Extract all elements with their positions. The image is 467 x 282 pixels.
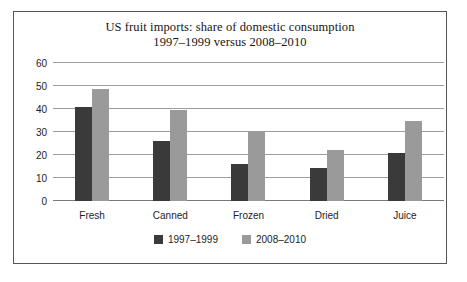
y-axis-tick-label-20: 20	[36, 150, 47, 161]
y-axis-tick-label-50: 50	[36, 81, 47, 92]
bar-dried-2008–2010	[327, 150, 344, 201]
legend-label-1997–1999: 1997–1999	[168, 234, 218, 245]
plot-area: 0102030405060 FreshCannedFrozenDriedJuic…	[53, 63, 444, 201]
plot-wrapper: 0102030405060 FreshCannedFrozenDriedJuic…	[14, 12, 446, 263]
bar-canned-2008–2010	[170, 110, 187, 201]
legend-label-2008–2010: 2008–2010	[256, 234, 306, 245]
bars-layer	[53, 63, 444, 201]
bar-canned-1997–1999	[153, 141, 170, 201]
chart-legend: 1997–19992008–2010	[14, 234, 446, 245]
legend-swatch-1997–1999	[154, 235, 163, 244]
chart-figure: US fruit imports: share of domestic cons…	[13, 11, 447, 264]
bar-juice-2008–2010	[405, 121, 422, 202]
y-axis-tick-label-30: 30	[36, 127, 47, 138]
bar-group-frozen	[209, 63, 287, 201]
bar-fresh-1997–1999	[75, 107, 92, 201]
bar-group-juice	[366, 63, 444, 201]
legend-swatch-2008–2010	[242, 235, 251, 244]
y-axis-tick-label-0: 0	[41, 196, 47, 207]
x-axis-label-canned: Canned	[153, 210, 188, 221]
bar-frozen-2008–2010	[248, 131, 265, 201]
x-axis-label-juice: Juice	[393, 210, 416, 221]
x-axis-label-dried: Dried	[315, 210, 339, 221]
y-axis-tick-label-60: 60	[36, 58, 47, 69]
legend-item-1997–1999: 1997–1999	[154, 234, 218, 245]
y-axis-tick-label-10: 10	[36, 173, 47, 184]
y-axis-tick-label-40: 40	[36, 104, 47, 115]
legend-item-2008–2010: 2008–2010	[242, 234, 306, 245]
bar-group-dried	[288, 63, 366, 201]
bar-juice-1997–1999	[388, 153, 405, 201]
x-axis-label-frozen: Frozen	[233, 210, 264, 221]
x-axis-label-fresh: Fresh	[79, 210, 105, 221]
bar-group-canned	[131, 63, 209, 201]
bar-dried-1997–1999	[310, 168, 327, 201]
bar-fresh-2008–2010	[92, 89, 109, 201]
bar-group-fresh	[53, 63, 131, 201]
bar-frozen-1997–1999	[231, 164, 248, 201]
